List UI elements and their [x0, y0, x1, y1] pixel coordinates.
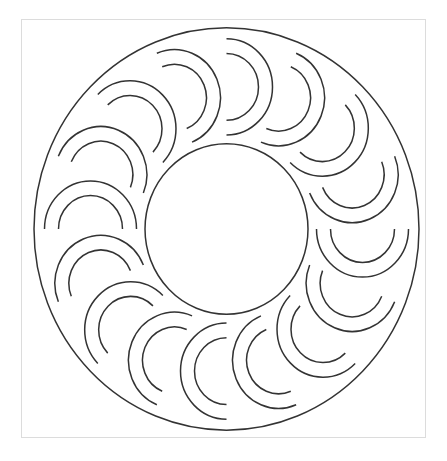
outer-crescent-arc — [45, 181, 137, 229]
crescent-motif — [98, 81, 176, 163]
crescent-motif — [157, 50, 221, 142]
crescent-motif — [310, 156, 399, 222]
outer-crescent-arc — [181, 323, 227, 419]
crescent-motifs — [45, 39, 409, 419]
inner-crescent-arc — [227, 53, 259, 120]
inner-crescent-arc — [331, 229, 395, 262]
inner-crescent-arc — [142, 327, 186, 391]
pattern-frame — [22, 20, 426, 438]
crescent-motif — [181, 323, 227, 419]
crescent-motif — [277, 296, 355, 378]
inner-crescent-arc — [266, 67, 310, 131]
inner-crescent-arc — [162, 64, 206, 128]
outer-circle — [34, 28, 419, 430]
crescent-motif — [317, 229, 409, 277]
inner-crescent-arc — [320, 271, 382, 317]
outer-crescent-arc — [98, 81, 176, 163]
ring-group — [34, 28, 419, 430]
outer-crescent-arc — [277, 296, 355, 378]
inner-crescent-arc — [59, 196, 123, 229]
inner-crescent-arc — [300, 105, 354, 162]
outer-crescent-arc — [290, 95, 368, 177]
inner-crescent-arc — [71, 141, 133, 187]
inner-crescent-arc — [195, 338, 227, 405]
outer-crescent-arc — [227, 39, 273, 135]
crescent-motif — [233, 316, 297, 408]
quilting-pattern — [0, 0, 447, 461]
inner-circle — [145, 144, 308, 314]
outer-crescent-arc — [85, 282, 163, 364]
inner-crescent-arc — [99, 296, 153, 353]
inner-crescent-arc — [108, 95, 162, 152]
outer-crescent-arc — [317, 229, 409, 277]
crescent-motif — [290, 95, 368, 177]
crescent-motif — [45, 181, 137, 229]
crescent-motif — [227, 39, 273, 135]
inner-crescent-arc — [291, 306, 345, 363]
inner-crescent-arc — [323, 162, 385, 208]
crescent-motif — [85, 282, 163, 364]
crescent-motif — [55, 235, 144, 301]
inner-crescent-arc — [69, 250, 131, 296]
inner-crescent-arc — [247, 329, 291, 393]
